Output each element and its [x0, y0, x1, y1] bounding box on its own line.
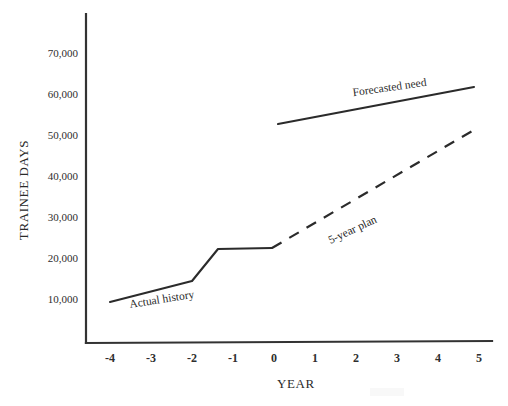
y-tick-label: 10,000 — [48, 293, 79, 305]
y-tick-label: 30,000 — [48, 211, 79, 223]
x-tick-label: 5 — [476, 351, 482, 365]
chart-page: 70,000 60,000 50,000 40,000 30,000 20,00… — [0, 0, 508, 406]
x-tick-label: 1 — [312, 351, 318, 365]
y-tick-label: 20,000 — [48, 252, 79, 264]
chart-background — [0, 0, 508, 406]
scan-artifact — [370, 388, 404, 396]
x-tick-label: -1 — [228, 351, 238, 365]
x-axis-title: YEAR — [277, 376, 315, 391]
x-tick-label: -4 — [105, 351, 115, 365]
y-tick-label: 70,000 — [48, 47, 79, 59]
x-tick-label: -2 — [187, 351, 197, 365]
x-tick-label: 0 — [271, 351, 277, 365]
y-tick-label: 50,000 — [48, 129, 79, 141]
x-tick-label: -3 — [146, 351, 156, 365]
y-tick-label: 40,000 — [48, 170, 79, 182]
y-tick-label: 60,000 — [48, 88, 79, 100]
x-tick-label: 2 — [353, 351, 359, 365]
x-tick-label: 3 — [394, 351, 400, 365]
x-tick-label: 4 — [435, 351, 441, 365]
y-axis-title: TRAINEE DAYS — [16, 140, 31, 240]
trainee-days-line-chart: 70,000 60,000 50,000 40,000 30,000 20,00… — [0, 0, 508, 406]
